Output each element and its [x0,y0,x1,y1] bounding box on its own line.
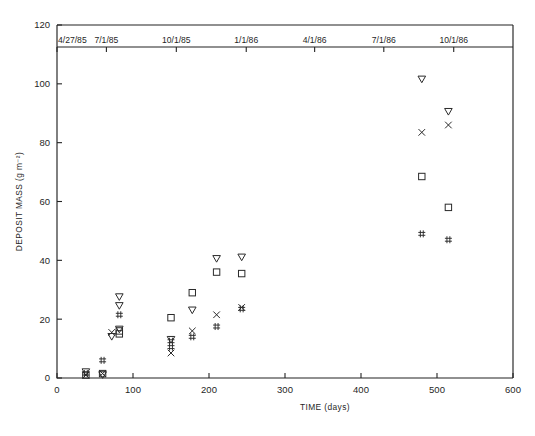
date-tick-label: 10/1/85 [162,35,191,45]
data-point-square [213,269,219,275]
triangle-down-marker [116,326,124,333]
axis-titles-layer: TIME (days)DEPOSIT MASS (g m⁻²) [14,152,350,412]
axes-layer [57,25,513,378]
date-tick-label: 7/1/86 [372,35,396,45]
x-tick-label: 400 [353,384,369,395]
date-tick-label: 4/1/86 [303,35,327,45]
deposit-mass-scatter-chart: 02040608010012001002003004005006004/27/8… [0,0,535,436]
y-tick-label: 120 [34,19,50,30]
x-tick-label: 300 [277,384,293,395]
data-point-triangle-down [116,326,124,333]
data-point-hash [168,344,175,351]
date-tick-label: 10/1/86 [439,35,468,45]
data-point-x [419,129,426,136]
triangle-down-marker [418,76,426,83]
tick-labels-layer: 02040608010012001002003004005006004/27/8… [34,19,521,395]
y-tick-label: 40 [39,255,50,266]
data-point-hash [445,236,452,243]
data-point-hash [189,333,196,340]
y-axis-title: DEPOSIT MASS (g m⁻²) [14,152,24,251]
data-points-layer [82,76,452,378]
data-point-triangle-down [99,372,107,379]
square-marker [213,269,219,275]
series-square [83,173,452,378]
triangle-down-marker [445,108,453,115]
data-point-triangle-down [116,303,124,310]
date-tick-label: 4/27/85 [58,35,87,45]
triangle-down-marker [238,254,246,261]
y-tick-label: 20 [39,314,50,325]
data-point-x [189,328,196,335]
y-tick-label: 80 [39,137,50,148]
square-marker [238,270,244,276]
data-point-x [168,350,175,357]
data-point-triangle-down [445,108,453,115]
data-point-triangle-down [213,256,221,263]
data-point-square [445,204,451,210]
x-axis-title: TIME (days) [300,402,350,412]
triangle-down-marker [213,256,221,263]
y-tick-label: 60 [39,196,50,207]
data-point-hash [99,357,106,364]
triangle-down-marker [116,294,124,301]
square-marker [168,314,174,320]
data-point-hash [116,311,123,318]
triangle-down-marker [99,372,107,379]
data-point-triangle-down [238,254,246,261]
square-marker [419,173,425,179]
data-point-hash [213,323,220,330]
data-point-hash [238,305,245,312]
y-tick-label: 100 [34,78,50,89]
series-triangle-down [82,76,452,378]
x-tick-label: 500 [429,384,445,395]
square-marker [445,204,451,210]
triangle-down-marker [188,307,196,314]
series-cross-x [83,122,452,379]
data-point-x [213,311,220,318]
data-point-x [445,122,452,129]
y-tick-label: 0 [45,372,50,383]
series-hash [82,230,452,377]
data-point-x [108,329,115,336]
x-tick-label: 600 [505,384,521,395]
x-tick-label: 200 [201,384,217,395]
ticks-layer [57,25,513,378]
data-point-square [238,270,244,276]
data-point-triangle-down [116,294,124,301]
data-point-square [419,173,425,179]
data-point-triangle-down [418,76,426,83]
date-tick-label: 7/1/85 [94,35,118,45]
primary-axis-frame [57,25,513,378]
chart-figure: 02040608010012001002003004005006004/27/8… [0,0,535,436]
triangle-down-marker [116,303,124,310]
data-point-triangle-down [188,307,196,314]
data-point-square [168,314,174,320]
data-point-square [189,289,195,295]
x-tick-label: 0 [54,384,59,395]
date-tick-label: 1/1/86 [234,35,258,45]
x-tick-label: 100 [125,384,141,395]
square-marker [189,289,195,295]
data-point-hash [418,230,425,237]
